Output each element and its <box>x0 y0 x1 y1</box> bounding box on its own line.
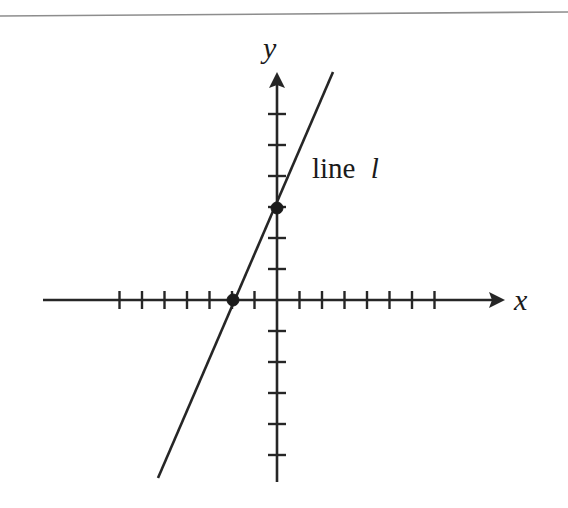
line-l-label-word: line <box>312 152 356 184</box>
line-l-label-letter: l <box>371 152 379 184</box>
y-axis-label: y <box>260 31 277 64</box>
y-intercept-dot <box>271 202 283 214</box>
x-axis-label: x <box>513 283 528 316</box>
coordinate-plane-diagram: x y line l <box>0 0 568 508</box>
top-horizontal-rule <box>0 12 568 16</box>
line-l-graph <box>158 72 333 478</box>
y-axis-group: y <box>260 31 286 482</box>
x-intercept-dot <box>227 294 239 306</box>
line-l-label: line l <box>312 152 379 184</box>
figure-container: x y line l <box>0 0 568 508</box>
x-axis-group: x <box>43 283 528 316</box>
